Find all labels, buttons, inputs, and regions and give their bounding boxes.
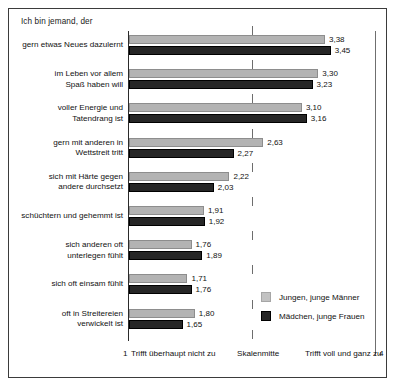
bar-female — [129, 285, 192, 294]
bar-female — [129, 114, 307, 123]
category-label-line: gern mit anderen in — [15, 138, 123, 149]
category-label-line: sich mit Härte gegen — [15, 172, 123, 183]
bar-female — [129, 251, 202, 260]
category-label: gern etwas Neues dazulernt — [15, 40, 123, 51]
axis-min-value: 1 — [123, 349, 128, 358]
scale-midpoint-tick — [252, 330, 253, 339]
scale-midpoint-tick — [252, 129, 253, 138]
scale-midpoint-tick — [252, 197, 253, 206]
bar-female — [129, 183, 214, 192]
bar-value-label-male: 1,80 — [199, 309, 215, 318]
category-label-line: voller Energie und — [15, 103, 123, 114]
scale-midpoint-tick — [252, 265, 253, 274]
category-label-line: schüchtern und gehemmt ist — [15, 211, 123, 222]
legend-item-female: Mädchen, junge Frauen — [261, 311, 386, 321]
bar-value-label-male: 3,10 — [306, 103, 322, 112]
category-label-line: andere durchsetzt — [15, 182, 123, 193]
axis-min-label: Trifft überhaupt nicht zu — [131, 349, 216, 358]
category-label-line: oft in Streitereien — [15, 309, 123, 320]
bar-value-label-female: 1,92 — [209, 217, 225, 226]
category-label-line: Spaß haben will — [15, 80, 123, 91]
category-label-line: unterlegen fühlt — [15, 251, 123, 262]
bar-value-label-male: 3,30 — [322, 69, 338, 78]
scale-midpoint-tick — [252, 94, 253, 103]
bar-value-label-female: 1,89 — [206, 251, 222, 260]
bar-value-label-female: 2,03 — [218, 183, 234, 192]
category-label-line: im Leben vor allem — [15, 69, 123, 80]
scale-midpoint-tick — [252, 300, 253, 309]
category-label: schüchtern und gehemmt ist — [15, 211, 123, 222]
bar-male — [129, 274, 187, 283]
category-label-line: Wettstreit tritt — [15, 148, 123, 159]
bar-value-label-male: 3,38 — [329, 35, 345, 44]
bar-value-label-female: 3,16 — [311, 114, 327, 123]
category-label-line: verwickelt ist — [15, 319, 123, 330]
axis-max-value: 4 — [379, 349, 384, 358]
legend-swatch-male-icon — [261, 292, 271, 302]
bar-male — [129, 103, 302, 112]
category-label: gern mit anderen inWettstreit tritt — [15, 138, 123, 159]
bar-female — [129, 149, 234, 158]
chart-page: Ich bin jemand, der gern etwas Neues daz… — [0, 0, 398, 391]
scale-midpoint-tick — [252, 60, 253, 69]
axis-mid-label: Skalenmitte — [237, 349, 279, 358]
bar-female — [129, 80, 313, 89]
category-label: im Leben vor allemSpaß haben will — [15, 69, 123, 90]
bar-value-label-male: 1,91 — [208, 206, 224, 215]
category-label-line: sich oft einsam fühlt — [15, 279, 123, 290]
bar-male — [129, 309, 195, 318]
value-axis-caption: 1 Trifft überhaupt nicht zu Skalenmitte … — [9, 349, 388, 369]
scale-midpoint-tick — [252, 26, 253, 35]
bar-female — [129, 46, 331, 55]
bar-male — [129, 172, 229, 181]
legend-label-female: Mädchen, junge Frauen — [279, 312, 365, 321]
chart-frame: Ich bin jemand, der gern etwas Neues daz… — [8, 8, 387, 378]
bar-male — [129, 69, 318, 78]
category-axis-labels: gern etwas Neues dazulerntim Leben vor a… — [13, 31, 123, 341]
bar-value-label-male: 2,63 — [267, 138, 283, 147]
bar-female — [129, 320, 183, 329]
bar-value-label-male: 1,76 — [196, 240, 212, 249]
category-label: oft in Streitereienverwickelt ist — [15, 309, 123, 330]
legend-label-male: Jungen, junge Männer — [279, 293, 360, 302]
bar-value-label-female: 1,65 — [187, 320, 203, 329]
category-label: sich oft einsam fühlt — [15, 279, 123, 290]
bar-value-label-female: 3,45 — [335, 46, 351, 55]
bar-value-label-male: 2,22 — [233, 172, 249, 181]
category-label: sich mit Härte gegenandere durchsetzt — [15, 172, 123, 193]
legend-swatch-female-icon — [261, 311, 271, 321]
category-label-line: sich anderen oft — [15, 240, 123, 251]
bar-female — [129, 217, 205, 226]
category-label-line: Tatendrang ist — [15, 114, 123, 125]
category-label: voller Energie undTatendrang ist — [15, 103, 123, 124]
scale-midpoint-tick — [252, 231, 253, 240]
bar-male — [129, 138, 263, 147]
scale-midpoint-tick — [252, 163, 253, 172]
axis-max-label: Trifft voll und ganz zu — [305, 349, 381, 358]
chart-legend: Jungen, junge Männer Mädchen, junge Frau… — [261, 292, 386, 330]
bar-value-label-female: 3,23 — [317, 80, 333, 89]
legend-item-male: Jungen, junge Männer — [261, 292, 386, 302]
bar-male — [129, 35, 325, 44]
bar-male — [129, 206, 204, 215]
category-label: sich anderen oftunterlegen fühlt — [15, 240, 123, 261]
bar-value-label-female: 2,27 — [238, 149, 254, 158]
chart-title: Ich bin jemand, der — [21, 17, 93, 26]
bar-value-label-male: 1,71 — [191, 274, 207, 283]
bar-value-label-female: 1,76 — [196, 285, 212, 294]
bar-male — [129, 240, 192, 249]
category-label-line: gern etwas Neues dazulernt — [15, 40, 123, 51]
